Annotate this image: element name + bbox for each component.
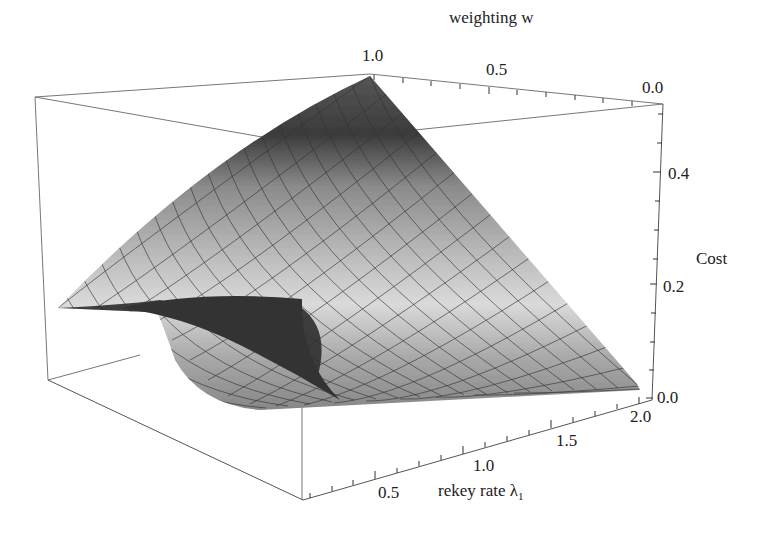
cost-tick-00: 0.0 <box>657 389 678 406</box>
lambda-tick-20: 2.0 <box>630 408 651 425</box>
w-tick-1: 1.0 <box>362 47 383 64</box>
lambda-tick-05: 0.5 <box>378 484 399 501</box>
cost-tick-02: 0.2 <box>663 278 684 295</box>
cost-axis-ticks <box>646 114 663 398</box>
w-axis-ticks <box>374 75 632 106</box>
w-tick-05: 0.5 <box>486 61 507 78</box>
w-tick-0: 0.0 <box>642 79 663 96</box>
lambda-axis-title: rekey rate λ1 <box>438 482 523 502</box>
w-axis-title: weighting w <box>449 9 534 26</box>
lambda-title-main: rekey rate λ <box>438 481 518 500</box>
lambda-tick-10: 1.0 <box>473 457 494 474</box>
lambda-tick-15: 1.5 <box>556 432 577 449</box>
lambda-title-subscript: 1 <box>518 490 524 502</box>
cost-surface <box>30 70 670 430</box>
cost-axis-title: Cost <box>696 250 727 267</box>
cost-tick-04: 0.4 <box>668 165 689 182</box>
